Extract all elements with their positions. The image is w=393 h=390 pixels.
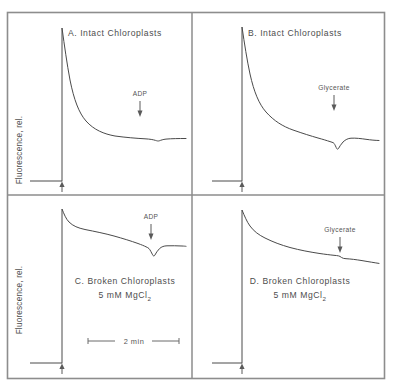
- y-axis-label-bottom: Fluorescence, rel.: [15, 266, 24, 335]
- figure-root: Fluorescence, rel. A. Intact Chloroplast…: [0, 0, 393, 390]
- scalebar-label: 2 min: [124, 337, 145, 346]
- panel-c-subtitle-text: 5 mM MgCl: [99, 290, 148, 300]
- panel-d-agent-label: Glycerate: [324, 226, 355, 234]
- panel-a-agent-label: ADP: [133, 90, 148, 97]
- panel-d-subtitle: 5 mM MgCl2: [274, 290, 327, 302]
- panel-b-title: B. Intact Chloroplasts: [248, 28, 342, 38]
- panel-c-subtitle: 5 mM MgCl2: [99, 290, 152, 302]
- panel-a-title: A. Intact Chloroplasts: [68, 28, 162, 38]
- panel-b-agent-label: Glycerate: [318, 84, 349, 92]
- panel-d-title: D. Broken Chloroplasts: [250, 276, 350, 286]
- panel-c-subtitle-subscript: 2: [147, 295, 151, 302]
- panel-c-agent-label: ADP: [144, 213, 159, 220]
- fluorescence-figure: Fluorescence, rel. A. Intact Chloroplast…: [0, 0, 393, 390]
- panel-d-subtitle-subscript: 2: [322, 295, 326, 302]
- y-axis-label-top: Fluorescence, rel.: [15, 116, 24, 185]
- panel-d-subtitle-text: 5 mM MgCl: [274, 290, 323, 300]
- panel-c-title: C. Broken Chloroplasts: [75, 276, 175, 286]
